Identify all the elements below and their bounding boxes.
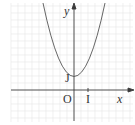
graph-canvas [0,0,135,125]
origin-label: O [63,93,72,105]
unit-j-label: J [65,72,70,84]
x-axis-arrow [128,88,134,92]
grid [11,3,133,122]
y-axis-label: y [64,5,69,17]
unit-i-label: I [86,93,90,105]
y-axis-arrow [72,3,76,9]
x-axis-label: x [117,93,122,105]
